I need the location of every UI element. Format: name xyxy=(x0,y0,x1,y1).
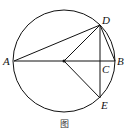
chord-ad xyxy=(14,25,100,61)
geometry-figure: A B C D E 图 xyxy=(0,0,127,129)
radius-od xyxy=(64,25,100,61)
label-a: A xyxy=(2,55,10,67)
label-c: C xyxy=(102,63,110,75)
figure-caption: 图 xyxy=(60,119,69,129)
radius-oe xyxy=(64,61,100,98)
label-d: D xyxy=(101,14,110,26)
chord-db xyxy=(100,25,115,61)
label-b: B xyxy=(117,55,124,67)
label-e: E xyxy=(100,99,108,111)
center-point xyxy=(63,60,66,63)
